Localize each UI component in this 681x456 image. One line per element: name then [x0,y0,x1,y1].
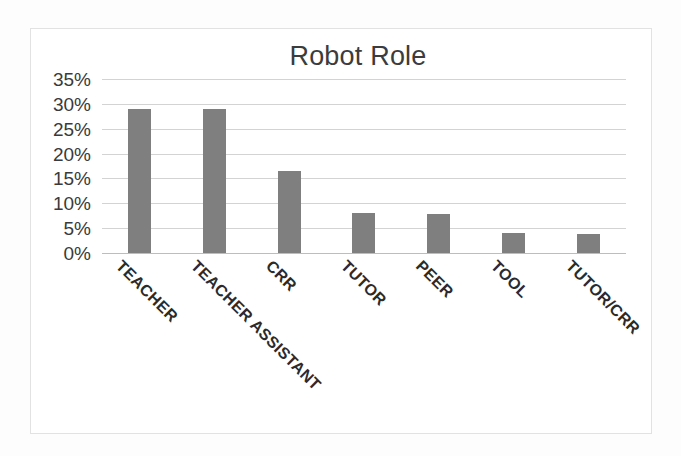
scanned-page-background: Robot Role 35%30%25%20%15%10%5%0% TEACHE… [0,0,681,456]
plot-area [102,79,626,253]
bar[interactable] [128,109,151,253]
bar[interactable] [203,109,226,253]
y-axis-tick-label: 0% [64,244,91,263]
y-axis-tick-label: 25% [53,119,91,138]
chart-title: Robot Role [31,41,651,72]
bar-slot [177,79,252,253]
y-axis-tick-label: 30% [53,94,91,113]
bar[interactable] [427,214,450,253]
x-axis-category-label: PEER [412,257,456,301]
x-axis-category-label: TEACHER ASSISTANT [188,257,325,394]
y-axis-tick-label: 20% [53,144,91,163]
bar[interactable] [502,233,525,253]
bar-slot [327,79,402,253]
bar-slot [401,79,476,253]
x-axis-category-label: TUTOR [337,257,390,310]
y-axis-tick-label: 5% [64,219,91,238]
x-axis-category-label: TUTOR/CRR [562,257,643,338]
bar[interactable] [352,213,375,253]
bar[interactable] [278,171,301,253]
bar-slot [476,79,551,253]
bar-slot [551,79,626,253]
y-axis-tick-label: 35% [53,70,91,89]
y-axis-tick-label: 10% [53,194,91,213]
x-axis-category-label: TOOL [487,257,532,302]
axis-baseline [102,253,626,254]
chart-frame: Robot Role 35%30%25%20%15%10%5%0% TEACHE… [30,28,652,434]
x-axis: TEACHERTEACHER ASSISTANTCRRTUTORPEERTOOL… [102,257,626,427]
x-axis-category-label: TEACHER [113,257,182,326]
bar-slot [102,79,177,253]
y-axis-tick-label: 15% [53,169,91,188]
bar-slot [252,79,327,253]
y-axis: 35%30%25%20%15%10%5%0% [31,79,97,253]
bar[interactable] [577,234,600,253]
x-axis-category-label: CRR [262,257,300,295]
